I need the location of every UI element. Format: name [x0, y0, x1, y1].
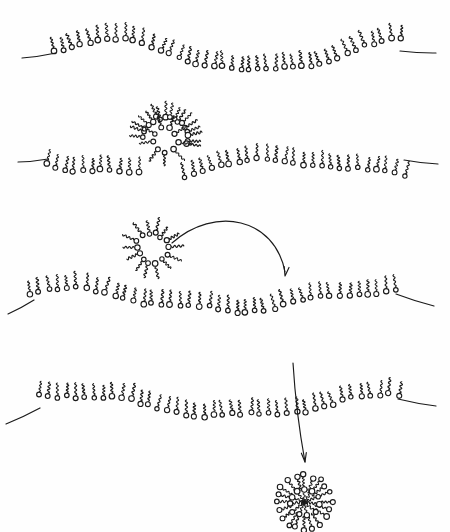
lipid-head — [90, 169, 95, 174]
lipid-head — [345, 50, 350, 55]
lipid-tail — [328, 392, 333, 402]
lipid-tail — [319, 282, 322, 293]
lipid-head — [324, 514, 330, 520]
lipid-molecule — [225, 150, 231, 166]
lipid-tail — [151, 104, 156, 113]
lipid-head — [178, 303, 183, 308]
lipid-tail — [132, 26, 135, 36]
lipid-molecule — [138, 390, 143, 407]
lipid-tail — [347, 155, 349, 166]
lipid-head — [274, 67, 278, 71]
lipid-head — [264, 66, 268, 70]
lipid-molecule — [64, 275, 69, 290]
lipid-molecule — [193, 50, 200, 66]
lipid-head — [327, 59, 332, 64]
lipid-head — [131, 298, 136, 303]
lipid-tail — [152, 34, 155, 44]
lipid-molecule — [371, 31, 376, 47]
lipid-head — [254, 155, 259, 160]
lipid-head — [167, 125, 173, 131]
lipid-head — [287, 501, 292, 506]
lipid-tail — [275, 401, 277, 412]
lipid-molecule — [347, 283, 352, 298]
lipid-molecule — [199, 158, 205, 173]
lipid-head — [185, 132, 191, 138]
lipid-tail — [190, 140, 200, 142]
lipid-tail — [170, 40, 174, 50]
lipid-tail — [340, 386, 343, 396]
lipid-head — [63, 168, 68, 173]
lipid-molecule — [365, 280, 371, 297]
lipid-head — [55, 396, 60, 401]
lipid-head — [374, 166, 380, 172]
lipid-tail — [155, 267, 159, 279]
lipid-tail — [133, 223, 141, 233]
membrane-left-end-line — [6, 408, 40, 424]
lipid-tail — [28, 281, 31, 291]
lipid-head — [93, 289, 98, 294]
lipid-head — [383, 168, 387, 172]
lipid-head — [275, 412, 280, 417]
lipid-molecule — [308, 283, 313, 300]
lipid-molecule — [126, 158, 132, 175]
lipid-molecule — [301, 152, 307, 168]
lipid-tail — [96, 25, 99, 36]
lipid-molecule — [226, 295, 231, 313]
lipid-tail — [282, 52, 285, 63]
lipid-molecule — [211, 401, 217, 418]
lipid-head — [97, 166, 103, 172]
lipid-tail — [275, 54, 278, 66]
lipid-molecule — [229, 400, 235, 416]
lipid-head — [291, 299, 296, 304]
lipid-head — [55, 287, 59, 291]
lipid-molecule — [86, 29, 94, 46]
lipid-tail — [65, 275, 68, 285]
lipid-head — [212, 63, 218, 69]
lipid-molecule — [397, 382, 403, 399]
lipid-molecule — [109, 382, 115, 399]
lipid-molecule — [266, 399, 271, 415]
lipid-tail — [298, 288, 303, 297]
lipid-head — [291, 64, 296, 69]
lipid-molecule — [120, 285, 126, 300]
lipid-tail — [292, 148, 294, 160]
lipid-tail — [341, 39, 347, 50]
monolayer-1 — [22, 23, 436, 72]
lipid-molecule — [93, 278, 98, 294]
lipid-tail — [227, 295, 229, 307]
lipid-tail — [165, 101, 167, 114]
lipid-head — [322, 484, 327, 489]
lipid-head — [362, 43, 366, 47]
lipid-molecule — [63, 156, 69, 172]
lipid-tail — [103, 385, 106, 395]
micelle-free-lower — [275, 472, 336, 532]
lipid-head — [290, 510, 295, 515]
lipid-molecule — [216, 295, 221, 311]
lipid-tail — [36, 278, 39, 289]
lipid-tail — [144, 266, 148, 278]
panel-4-monolayer-shedding-micelle — [6, 363, 436, 532]
lipid-molecule — [81, 156, 86, 173]
lipid-tail — [99, 155, 102, 166]
lipid-head — [88, 40, 93, 45]
lipid-head — [273, 158, 277, 162]
lipid-molecule — [191, 403, 196, 419]
lipid-molecule — [136, 257, 146, 270]
lipid-head — [313, 509, 318, 514]
lipid-head — [141, 135, 145, 139]
lipid-molecule — [191, 160, 196, 176]
lipid-head — [136, 169, 142, 175]
lipid-molecule — [337, 155, 342, 170]
lipid-tail — [349, 37, 355, 48]
lipid-tail — [158, 395, 161, 406]
lipid-head — [165, 252, 170, 257]
lipid-molecule — [70, 157, 75, 174]
lipid-molecule — [97, 155, 103, 172]
lipid-tail — [245, 146, 248, 158]
lipid-molecule — [301, 472, 306, 488]
lipid-head — [297, 512, 302, 517]
lipid-tail — [283, 489, 292, 495]
lipid-head — [384, 289, 389, 294]
lipid-head — [179, 120, 184, 125]
lipid-head — [171, 146, 177, 152]
